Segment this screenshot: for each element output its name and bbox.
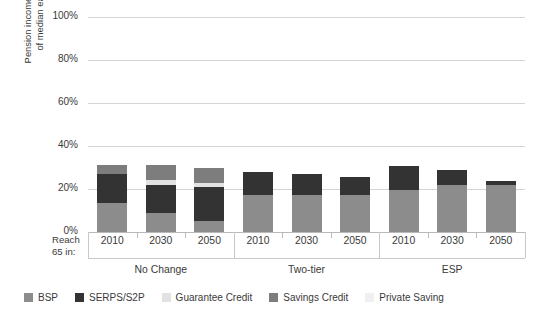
bar-segment-bsp — [243, 195, 273, 232]
y-axis-tick-label: 40% — [34, 139, 78, 150]
legend-label: SERPS/S2P — [89, 292, 145, 303]
bar-segment-savings-credit — [146, 165, 176, 180]
x-axis-tick — [185, 232, 186, 238]
group-rule — [379, 258, 525, 259]
bar-segment-bsp — [194, 221, 224, 232]
y-axis-title-line1: Pension income as percentage — [22, 0, 34, 64]
x-axis-tick — [137, 232, 138, 238]
x-axis-title: Reach 65 in: — [52, 234, 92, 258]
x-axis-tick-label: 2050 — [186, 235, 232, 246]
x-axis-tick — [331, 232, 332, 238]
x-axis-tick-label: 2010 — [381, 235, 427, 246]
bar-segment-serps-s2p — [340, 177, 370, 195]
group-separator — [88, 232, 89, 258]
bar-two-tier-2010[interactable] — [243, 172, 273, 232]
legend-item-bsp[interactable]: BSP — [24, 292, 58, 303]
legend-item-guarantee-credit[interactable]: Guarantee Credit — [162, 292, 253, 303]
bar-segment-serps-s2p — [437, 170, 467, 185]
group-rule — [88, 258, 234, 259]
legend-swatch-icon — [75, 293, 84, 302]
bar-segment-savings-credit — [97, 165, 127, 174]
x-axis-tick — [282, 232, 283, 238]
bar-no-change-2030[interactable] — [146, 165, 176, 232]
group-label-esp: ESP — [379, 264, 525, 275]
bar-segment-serps-s2p — [292, 174, 322, 196]
bar-segment-bsp — [292, 195, 322, 232]
legend-label: Private Saving — [379, 292, 443, 303]
legend-label: Savings Credit — [283, 292, 348, 303]
bar-segment-serps-s2p — [194, 187, 224, 221]
legend-swatch-icon — [162, 293, 171, 302]
y-axis-tick-label: 80% — [34, 53, 78, 64]
group-separator — [234, 232, 235, 258]
bar-segment-serps-s2p — [97, 174, 127, 203]
bar-segment-serps-s2p — [146, 185, 176, 213]
x-axis-line — [88, 232, 525, 233]
x-axis-tick-label: 2010 — [89, 235, 135, 246]
x-axis-tick-label: 2050 — [332, 235, 378, 246]
bar-two-tier-2030[interactable] — [292, 174, 322, 232]
gridline — [88, 60, 525, 61]
bar-no-change-2050[interactable] — [194, 168, 224, 232]
x-axis-tick-label: 2030 — [429, 235, 475, 246]
legend-item-savings-credit[interactable]: Savings Credit — [269, 292, 348, 303]
bar-segment-bsp — [437, 185, 467, 232]
legend-swatch-icon — [24, 293, 33, 302]
bar-segment-bsp — [146, 213, 176, 232]
group-separator — [525, 232, 526, 258]
y-axis-tick-label: 60% — [34, 96, 78, 107]
x-axis-tick — [428, 232, 429, 238]
bar-segment-bsp — [340, 195, 370, 232]
bar-no-change-2010[interactable] — [97, 165, 127, 232]
group-separator — [379, 232, 380, 258]
plot-area — [88, 17, 525, 232]
bar-esp-2010[interactable] — [389, 166, 419, 232]
legend-item-private-saving[interactable]: Private Saving — [365, 292, 443, 303]
chart-container: Pension income as percentage of median e… — [0, 0, 559, 321]
bar-segment-serps-s2p — [243, 172, 273, 196]
x-axis-tick-label: 2010 — [235, 235, 281, 246]
x-axis-title-line1: Reach — [52, 234, 92, 246]
legend-swatch-icon — [365, 293, 374, 302]
bar-esp-2030[interactable] — [437, 170, 467, 232]
group-label-no-change: No Change — [88, 264, 234, 275]
x-axis-tick — [476, 232, 477, 238]
group-label-two-tier: Two-tier — [234, 264, 380, 275]
gridline — [88, 17, 525, 18]
legend-swatch-icon — [269, 293, 278, 302]
y-axis-tick-label: 100% — [34, 10, 78, 21]
x-axis-tick-label: 2030 — [138, 235, 184, 246]
bar-esp-2050[interactable] — [486, 181, 516, 232]
bar-segment-bsp — [97, 203, 127, 232]
chart-legend: BSPSERPS/S2PGuarantee CreditSavings Cred… — [24, 292, 461, 303]
legend-label: BSP — [38, 292, 58, 303]
gridline — [88, 103, 525, 104]
bar-segment-serps-s2p — [389, 166, 419, 190]
legend-item-serps-s2p[interactable]: SERPS/S2P — [75, 292, 145, 303]
gridline — [88, 146, 525, 147]
x-axis-tick-label: 2050 — [478, 235, 524, 246]
bar-two-tier-2050[interactable] — [340, 177, 370, 232]
group-rule — [234, 258, 380, 259]
bar-segment-savings-credit — [194, 168, 224, 183]
legend-label: Guarantee Credit — [176, 292, 253, 303]
x-axis-tick-label: 2030 — [284, 235, 330, 246]
bar-segment-bsp — [486, 185, 516, 232]
bar-segment-bsp — [389, 190, 419, 232]
x-axis-title-line2: 65 in: — [52, 246, 92, 258]
y-axis-tick-label: 20% — [34, 182, 78, 193]
